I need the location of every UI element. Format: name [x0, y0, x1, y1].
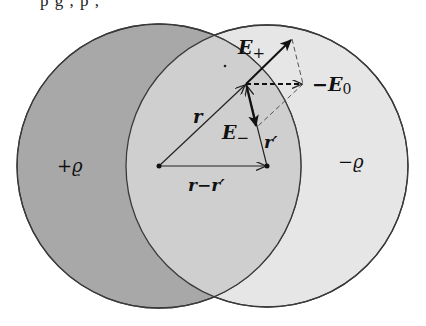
label-plus-rho: +ϱ	[57, 155, 83, 176]
label-r-prime: r′	[264, 132, 278, 152]
positive-center-point	[157, 164, 162, 169]
label-minus-rho: −ϱ	[338, 151, 364, 172]
negative-center-point	[265, 164, 270, 169]
label-r: r	[193, 106, 204, 127]
label-r-minus-r-prime: r−r′	[188, 175, 225, 195]
speck	[224, 65, 227, 68]
superposition-diagram: r r−r′ r′ E+ E− −E0 +ϱ −ϱ	[0, 0, 426, 326]
